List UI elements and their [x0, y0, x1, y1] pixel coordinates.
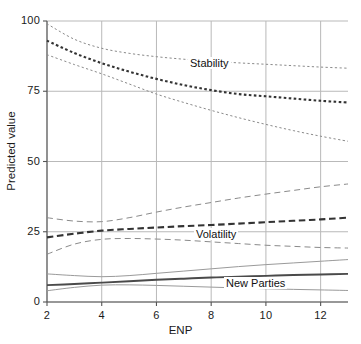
- y-axis-label-text: Predicted value: [5, 111, 17, 190]
- chart-container: Predicted value ENP 0255075100 24681012 …: [0, 0, 361, 344]
- y-axis-label: Predicted value: [0, 0, 22, 302]
- y-tick-label: 100: [0, 14, 40, 26]
- series-line: [47, 274, 348, 285]
- series-line: [47, 238, 348, 254]
- series-label-volatility: Volatility: [194, 228, 238, 240]
- y-tick-label: 0: [0, 295, 40, 307]
- x-tick-label: 6: [136, 309, 176, 321]
- x-axis-label: ENP: [0, 324, 361, 336]
- series-line: [47, 41, 348, 103]
- x-tick-label: 12: [301, 309, 341, 321]
- series-line: [47, 285, 348, 291]
- y-tick-label: 25: [0, 225, 40, 237]
- x-tick-label: 2: [27, 309, 67, 321]
- x-tick-label: 4: [82, 309, 122, 321]
- chart-plot-area: [0, 0, 361, 344]
- series-label-new-parties: New Parties: [224, 277, 287, 289]
- series-label-stability: Stability: [188, 57, 231, 69]
- axis-ticks: [43, 21, 321, 306]
- y-tick-label: 75: [0, 84, 40, 96]
- x-tick-label: 10: [246, 309, 286, 321]
- series-line: [47, 184, 348, 222]
- y-tick-label: 50: [0, 155, 40, 167]
- x-tick-label: 8: [191, 309, 231, 321]
